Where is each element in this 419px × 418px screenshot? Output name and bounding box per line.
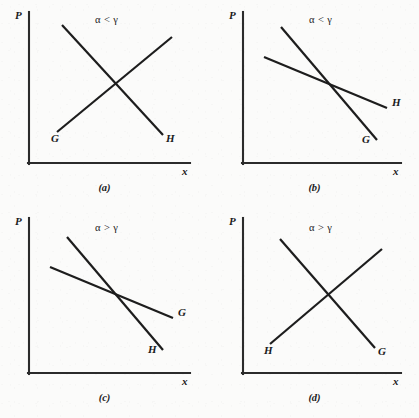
panel-b: P x α < γ G H (b) bbox=[210, 0, 419, 209]
curve-label-h: H bbox=[148, 344, 157, 355]
condition-label: α < γ bbox=[309, 15, 332, 26]
curve-label-g: G bbox=[362, 134, 370, 145]
curve-label-g: G bbox=[51, 133, 59, 144]
x-axis-label: x bbox=[393, 376, 399, 387]
curve-g bbox=[57, 37, 172, 132]
condition-label: α < γ bbox=[95, 15, 118, 26]
curve-label-h: H bbox=[264, 345, 273, 356]
x-axis-label: x bbox=[393, 166, 399, 177]
condition-label: α > γ bbox=[309, 223, 332, 234]
condition-label: α > γ bbox=[95, 223, 118, 234]
panel-caption-a: (a) bbox=[0, 183, 209, 194]
curve-g bbox=[280, 239, 375, 348]
x-axis-label: x bbox=[182, 166, 188, 177]
y-axis-label: P bbox=[15, 10, 22, 21]
curve-g bbox=[50, 267, 173, 318]
panel-b-plot bbox=[210, 0, 419, 209]
y-axis-label: P bbox=[229, 216, 236, 227]
panel-d-plot bbox=[210, 209, 419, 418]
panel-a: P x α < γ G H (a) bbox=[0, 0, 209, 209]
curve-h bbox=[264, 57, 387, 108]
curve-h bbox=[62, 25, 163, 135]
x-axis-label: x bbox=[182, 376, 188, 387]
panel-a-plot bbox=[0, 0, 209, 209]
panel-c: P x α > γ H G (c) bbox=[0, 209, 209, 418]
panel-caption-b: (b) bbox=[210, 183, 419, 194]
curve-h bbox=[270, 249, 382, 344]
curve-label-h: H bbox=[166, 133, 175, 144]
panel-caption-c: (c) bbox=[0, 393, 209, 404]
figure-container: P x α < γ G H (a) P x α < γ G H (b) P x … bbox=[0, 0, 419, 418]
curve-label-g: G bbox=[378, 346, 386, 357]
curve-label-g: G bbox=[178, 307, 186, 318]
panel-caption-d: (d) bbox=[210, 393, 419, 404]
panel-d: P x α > γ H G (d) bbox=[210, 209, 419, 418]
y-axis-label: P bbox=[15, 216, 22, 227]
curve-label-h: H bbox=[392, 97, 401, 108]
y-axis-label: P bbox=[229, 10, 236, 21]
